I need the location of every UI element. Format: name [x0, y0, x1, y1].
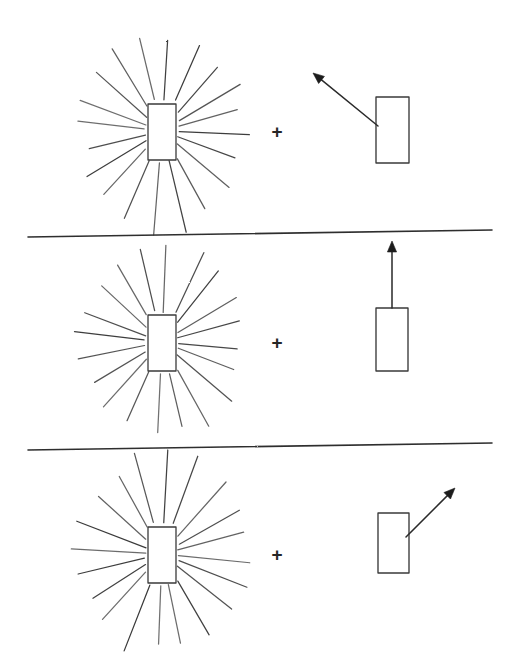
target-1	[313, 73, 409, 163]
starburst-1-ray	[178, 137, 235, 158]
starburst-3-ray	[177, 566, 231, 609]
starburst-2-ray	[178, 370, 209, 426]
starburst-1-rays	[78, 38, 249, 235]
starburst-1-ray	[78, 121, 144, 129]
starburst-1-ray	[104, 149, 146, 194]
starburst-2-ray	[85, 313, 146, 336]
starburst-1-ray	[140, 38, 155, 99]
starburst-3-ray	[179, 510, 239, 544]
starburst-3-ray	[71, 549, 145, 553]
starburst-2-ray	[178, 348, 233, 369]
starburst-1-ray	[177, 144, 229, 187]
row-divider-2	[28, 443, 492, 450]
starburst-1-ray	[177, 159, 204, 209]
starburst-1-core-box	[148, 104, 176, 160]
starburst-1-ray	[124, 161, 149, 219]
starburst-2-ray	[95, 352, 146, 382]
starburst-1-ray	[179, 132, 249, 135]
starburst-1-ray	[154, 163, 160, 235]
figure-root: + +	[0, 0, 519, 663]
starburst-1-ray	[80, 100, 146, 125]
starburst-1	[78, 38, 249, 235]
target-2	[376, 241, 408, 371]
starburst-2-ray	[178, 321, 240, 338]
plus-operator-1: +	[271, 121, 282, 142]
starburst-2-ray	[140, 249, 154, 310]
starburst-3-core-box	[148, 527, 176, 583]
starburst-3-ray	[164, 450, 168, 523]
starburst-2-ray	[78, 346, 144, 359]
starburst-3-ray	[178, 556, 249, 563]
starburst-3-ray	[173, 456, 198, 523]
arrow-3-shaft	[406, 494, 449, 537]
target-1-box	[376, 97, 409, 163]
starburst-1-ray	[179, 84, 240, 120]
row-divider-1	[28, 230, 492, 237]
starburst-1-ray	[96, 72, 146, 117]
starburst-2-ray	[170, 374, 182, 427]
starburst-2-ray	[103, 359, 146, 407]
starburst-2-ray	[179, 344, 237, 349]
starburst-3	[71, 450, 249, 651]
starburst-2-ray	[178, 298, 236, 333]
row-1: +	[78, 38, 409, 235]
starburst-3-ray	[77, 521, 146, 548]
starburst-1-ray	[179, 110, 237, 127]
starburst-3-rays	[71, 450, 249, 651]
starburst-2-core-box	[148, 315, 176, 371]
starburst-2	[75, 245, 240, 432]
starburst-2-ray	[158, 374, 161, 433]
row-2: +	[75, 241, 408, 433]
starburst-3-ray	[178, 581, 209, 635]
starburst-1-ray	[164, 40, 168, 100]
arrow-1-shaft	[320, 79, 378, 126]
starburst-1-ray	[178, 67, 217, 112]
plus-operator-2: +	[271, 332, 282, 353]
starburst-3-ray	[134, 453, 153, 522]
starburst-3-ray	[159, 586, 161, 644]
starburst-2-rays	[75, 245, 240, 432]
row-3: +	[71, 450, 455, 651]
starburst-2-ray	[75, 332, 145, 340]
plus-operator-3: +	[271, 544, 282, 565]
starburst-1-ray	[112, 49, 147, 106]
arrow-2-head	[387, 241, 396, 252]
starburst-3-ray	[178, 532, 244, 550]
starburst-2-ray	[176, 253, 204, 313]
starburst-3-ray	[179, 561, 247, 588]
starburst-2-ray	[163, 245, 166, 312]
starburst-2-ray	[127, 372, 149, 421]
starburst-3-ray	[124, 585, 150, 651]
target-3-box	[378, 513, 409, 573]
starburst-2-ray	[118, 265, 147, 315]
starburst-2-ray	[177, 355, 231, 401]
target-3	[378, 488, 455, 573]
starburst-2-ray	[102, 286, 146, 327]
arrow-1-head	[313, 73, 324, 84]
starburst-3-ray	[168, 585, 180, 643]
target-2-box	[376, 308, 408, 371]
diagram-canvas: + +	[0, 0, 519, 663]
